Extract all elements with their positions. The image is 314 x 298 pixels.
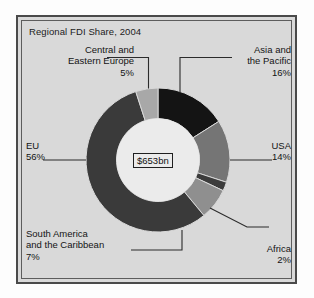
slice-label-line2: Eastern Europe bbox=[68, 55, 134, 66]
slice-label-eu: EU 56% bbox=[26, 140, 62, 163]
slice-label-percent: 16% bbox=[272, 67, 291, 78]
slice-label-percent: 2% bbox=[277, 254, 291, 265]
slice-label-africa: Africa 2% bbox=[250, 243, 291, 266]
slice-label-line1: USA bbox=[271, 140, 291, 151]
slice-label-percent: 5% bbox=[120, 67, 134, 78]
slice-label-south-america-caribbean: South America and the Caribbean 7% bbox=[26, 228, 136, 262]
center-total-value: $653bn bbox=[133, 153, 173, 168]
slice-label-percent: 56% bbox=[26, 151, 45, 162]
leader-line-africa bbox=[210, 208, 269, 227]
slice-label-line1: EU bbox=[26, 140, 39, 151]
figure-container: Regional FDI Share, 2004 Central and Eas… bbox=[0, 0, 314, 298]
slice-label-line1: Central and bbox=[85, 44, 134, 55]
slice-label-line2: and the Caribbean bbox=[26, 239, 104, 250]
slice-label-asia-pacific: Asia and the Pacific 16% bbox=[229, 44, 291, 78]
slice-label-line1: Asia and bbox=[254, 44, 291, 55]
slice-label-percent: 7% bbox=[26, 251, 40, 262]
leader-line-asia bbox=[180, 58, 232, 94]
leader-line-sam bbox=[131, 230, 182, 250]
slice-label-line1: South America bbox=[26, 228, 88, 239]
slice-label-line1: Africa bbox=[267, 243, 291, 254]
slice-label-line2: the Pacific bbox=[247, 55, 291, 66]
slice-label-central-eastern-europe: Central and Eastern Europe 5% bbox=[30, 44, 134, 78]
slice-label-usa: USA 14% bbox=[255, 140, 291, 163]
slice-label-percent: 14% bbox=[272, 151, 291, 162]
